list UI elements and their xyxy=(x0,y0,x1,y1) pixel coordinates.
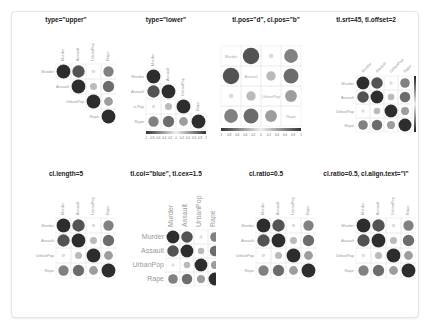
panel-cl-ratio: cl.ratio=0.5 MurderAssaultUrbanPopRapeMu… xyxy=(216,170,316,320)
svg-text:UrbanPop: UrbanPop xyxy=(180,77,185,96)
svg-text:-0.4: -0.4 xyxy=(162,136,167,140)
svg-text:Rape: Rape xyxy=(195,101,200,111)
svg-text:UrbanPop: UrbanPop xyxy=(66,99,85,104)
svg-text:Assault: Assault xyxy=(56,84,70,89)
corr-circle xyxy=(58,265,68,275)
svg-text:Rape: Rape xyxy=(105,205,110,215)
corr-circle xyxy=(387,249,401,263)
corrplot: MurderAssaultUrbanPopRapeMurderAssaultUr… xyxy=(16,178,116,318)
corr-circle xyxy=(372,234,386,248)
svg-text:-1: -1 xyxy=(145,136,148,140)
svg-text:1: 1 xyxy=(300,133,302,137)
corr-circle xyxy=(287,249,301,263)
corr-circle xyxy=(246,91,255,100)
svg-text:-0.4: -0.4 xyxy=(243,133,248,137)
svg-text:Rape: Rape xyxy=(344,268,354,273)
svg-text:Rape: Rape xyxy=(344,123,354,128)
svg-text:-0.2: -0.2 xyxy=(251,133,256,137)
svg-text:UrbanPop: UrbanPop xyxy=(262,94,281,99)
corrplot: MurderAssaultUrbanPopRapeMurderAssaultUr… xyxy=(316,24,416,164)
corr-circle xyxy=(388,94,395,101)
corr-circle xyxy=(400,78,410,88)
corr-circle xyxy=(272,219,284,231)
panel-title: tl.pos="d", cl.pos="b" xyxy=(216,16,316,23)
corr-circle xyxy=(167,245,179,257)
corr-circle xyxy=(89,266,98,275)
corr-circle xyxy=(372,120,383,131)
corr-circle xyxy=(171,263,174,266)
panel-rotated-labels: tl.srt=45, tl.offset=2 MurderAssaultUrba… xyxy=(316,16,416,166)
panel-upper: type="upper" MurderAssaultUrbanPopRapeMu… xyxy=(16,16,116,166)
corr-circle xyxy=(304,251,313,260)
corr-circle xyxy=(266,71,275,80)
svg-text:0.4: 0.4 xyxy=(186,136,190,140)
svg-text:Murder: Murder xyxy=(142,233,165,240)
corr-circle xyxy=(284,49,298,63)
svg-text:UrbanPop: UrbanPop xyxy=(290,196,295,215)
corr-circle xyxy=(57,234,69,246)
corr-circle xyxy=(229,94,234,99)
svg-text:0.2: 0.2 xyxy=(267,133,271,137)
corr-circle xyxy=(404,251,413,260)
corr-circle xyxy=(258,265,268,275)
svg-text:UrbanPop: UrbanPop xyxy=(336,109,355,114)
corr-circle xyxy=(103,220,113,230)
svg-text:Assault: Assault xyxy=(341,95,355,100)
svg-text:Assault: Assault xyxy=(375,201,380,215)
svg-text:Assault: Assault xyxy=(241,238,255,243)
panel-diag-labels: tl.pos="d", cl.pos="b" MurderAssaultUrba… xyxy=(216,16,316,166)
svg-text:Assault: Assault xyxy=(141,247,164,254)
svg-text:Murder: Murder xyxy=(41,223,54,228)
panel-cl-length: cl.length=5 MurderAssaultUrbanPopRapeMur… xyxy=(16,170,116,320)
corrplot: MurderAssaultUrbanPopRapeMurderAssaultUr… xyxy=(116,178,216,318)
svg-text:Assault: Assault xyxy=(374,60,387,73)
svg-text:Murder: Murder xyxy=(360,202,365,215)
panel-cl-align: cl.ratio=0.5, cl.align.text="l" MurderAs… xyxy=(316,170,416,320)
corr-circle xyxy=(361,109,364,112)
corr-circle xyxy=(362,254,366,258)
corr-circle xyxy=(399,119,412,132)
corr-circle xyxy=(72,219,84,231)
corr-circle xyxy=(87,249,101,263)
corr-circle xyxy=(168,274,178,284)
panel-title: tl.col="blue", tl.cex=1.5 xyxy=(116,170,216,177)
corr-circle xyxy=(269,54,274,59)
svg-text:UrbanPop: UrbanPop xyxy=(36,253,55,258)
corr-circle xyxy=(371,91,384,104)
corr-circle xyxy=(72,234,86,248)
corr-circle xyxy=(373,265,384,276)
svg-text:Murder: Murder xyxy=(60,48,65,61)
svg-text:0.6: 0.6 xyxy=(283,133,287,137)
corr-circle xyxy=(272,234,286,248)
corr-circle xyxy=(285,90,297,102)
svg-text:-0.2: -0.2 xyxy=(168,136,173,140)
corr-circle xyxy=(374,108,381,115)
corr-circle xyxy=(148,116,158,126)
svg-text:UrbanPop: UrbanPop xyxy=(336,253,355,258)
corr-circle xyxy=(257,234,269,246)
panel-tl-cex: tl.col="blue", tl.cex=1.5 MurderAssaultU… xyxy=(116,170,216,320)
corr-circle xyxy=(387,121,395,129)
svg-text:Rape: Rape xyxy=(305,205,310,215)
svg-text:UrbanPop: UrbanPop xyxy=(90,42,95,61)
svg-text:Rape: Rape xyxy=(286,114,296,119)
corr-circle xyxy=(224,109,238,123)
svg-text:n.Pop: n.Pop xyxy=(134,104,145,109)
svg-text:-1: -1 xyxy=(220,133,223,137)
corr-circle xyxy=(262,254,266,258)
panel-title: type="upper" xyxy=(16,16,116,23)
corr-circle xyxy=(243,108,258,123)
corr-circle xyxy=(385,105,398,118)
corr-circle xyxy=(182,274,193,285)
corr-circle xyxy=(198,248,205,255)
corr-circle xyxy=(303,235,314,246)
svg-text:Rape: Rape xyxy=(147,275,164,283)
corr-circle xyxy=(275,252,282,259)
corr-circle xyxy=(389,266,398,275)
corr-circle xyxy=(195,259,208,272)
svg-text:UrbanPop: UrbanPop xyxy=(390,196,395,215)
svg-text:Murder: Murder xyxy=(341,223,354,228)
corr-circle xyxy=(179,117,188,126)
corrplot: MurderAssaultn.PopRapeMurderAssaultUrban… xyxy=(116,24,216,164)
svg-text:Murder: Murder xyxy=(60,202,65,215)
